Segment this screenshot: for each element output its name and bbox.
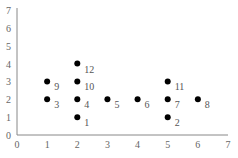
- data-point: [74, 114, 80, 120]
- y-tick-label: 1: [6, 112, 11, 123]
- x-tick-label: 1: [45, 139, 50, 150]
- data-point: [74, 96, 80, 102]
- y-tick-label: 5: [6, 41, 11, 52]
- scatter-chart: 0123456701234567 123456789101112: [0, 0, 238, 158]
- data-point: [165, 96, 171, 102]
- x-tick-label: 5: [165, 139, 170, 150]
- x-tick-label: 2: [75, 139, 80, 150]
- x-tick-label: 4: [135, 139, 140, 150]
- data-point: [135, 96, 141, 102]
- tick-labels: 0123456701234567: [6, 5, 231, 150]
- data-points: 123456789101112: [44, 61, 210, 129]
- y-tick-label: 4: [6, 59, 11, 70]
- data-point: [104, 96, 110, 102]
- axes: [17, 8, 228, 135]
- point-label: 3: [54, 99, 59, 110]
- data-point: [195, 96, 201, 102]
- point-label: 11: [175, 81, 185, 92]
- y-tick-label: 0: [6, 130, 11, 141]
- data-point: [74, 78, 80, 84]
- point-label: 5: [114, 99, 119, 110]
- point-label: 1: [84, 117, 89, 128]
- x-tick-label: 3: [105, 139, 110, 150]
- x-tick-label: 6: [195, 139, 200, 150]
- data-point: [165, 78, 171, 84]
- y-tick-label: 7: [6, 5, 11, 16]
- x-tick-label: 7: [226, 139, 231, 150]
- point-label: 7: [175, 99, 180, 110]
- point-label: 9: [54, 81, 59, 92]
- data-point: [165, 114, 171, 120]
- y-tick-label: 3: [6, 76, 11, 87]
- data-point: [44, 78, 50, 84]
- y-tick-label: 6: [6, 23, 11, 34]
- point-label: 4: [84, 99, 89, 110]
- y-tick-label: 2: [6, 94, 11, 105]
- point-label: 8: [205, 99, 210, 110]
- point-label: 6: [145, 99, 150, 110]
- data-point: [44, 96, 50, 102]
- point-label: 12: [84, 64, 94, 75]
- point-label: 10: [84, 81, 94, 92]
- x-tick-label: 0: [15, 139, 20, 150]
- data-point: [74, 61, 80, 67]
- point-label: 2: [175, 117, 180, 128]
